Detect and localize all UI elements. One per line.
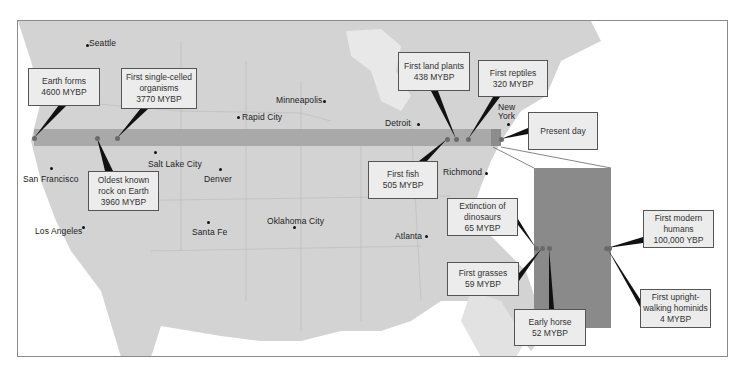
callout-upright-hominids: First upright- walking hominids 4 MYBP [640, 289, 711, 328]
timeline-bar [34, 129, 501, 146]
event-dot-present-day [499, 137, 504, 142]
callout-first-fish: First fish 505 MYBP [368, 161, 438, 199]
callout-first-land-plants: First land plants 438 MYBP [398, 52, 470, 91]
callout-first-grasses: First grasses 59 MYBP [447, 262, 519, 296]
callout-earth-forms: Earth forms 4600 MYBP [28, 68, 100, 106]
callout-first-modern-humans: First modern humans 100,000 YBP [643, 210, 714, 248]
event-dot-first-grasses [540, 246, 545, 251]
map-frame: Seattle Minneapolis Rapid City Detroit N… [17, 20, 728, 357]
event-dot-single-celled [115, 136, 120, 141]
callout-oldest-rock: Oldest known rock on Earth 3960 MYBP [88, 171, 159, 211]
event-dot-first-fish [445, 137, 450, 142]
callout-first-single-celled: First single-celled organisms 3770 MYBP [121, 68, 197, 109]
magnified-panel [534, 168, 611, 328]
callout-dinosaur-extinction: Extinction of dinosaurs 65 MYBP [447, 198, 518, 236]
callout-first-reptiles: First reptiles 320 MYBP [478, 60, 548, 97]
callout-present-day: Present day [528, 112, 598, 150]
event-dot-earth-forms [32, 136, 37, 141]
event-dot-early-horse [547, 246, 552, 251]
event-dot-land-plants [454, 137, 459, 142]
event-dot-oldest-rock [95, 136, 100, 141]
event-dot-dinosaur-extinction [534, 246, 539, 251]
event-dot-reptiles [466, 137, 471, 142]
callout-early-horse: Early horse 52 MYBP [514, 309, 586, 346]
event-dot-modern-humans [607, 246, 612, 251]
